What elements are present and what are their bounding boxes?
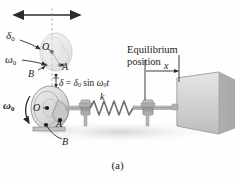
rotation-arc — [26, 96, 30, 123]
right-collar — [143, 100, 153, 115]
label-omega0-top: ω0 — [5, 54, 16, 66]
figure-caption: (a) — [0, 160, 235, 171]
diagram-artwork — [0, 0, 235, 184]
label-equilibrium-position: Equilibriumposition — [127, 44, 178, 68]
equation-delta: δ = δ0 sin ω0t — [59, 79, 109, 89]
spring — [90, 101, 133, 115]
label-spring-constant: k — [100, 92, 104, 102]
label-point-O-bottom: O — [33, 103, 40, 113]
label-point-B-bottom: B — [62, 137, 68, 147]
label-omega0-bottom: ω0 — [3, 100, 14, 112]
label-delta0: δ0 — [6, 30, 15, 42]
label-point-O-top: O — [42, 42, 49, 52]
label-point-B-top: B — [28, 69, 34, 79]
label-x-dimension: x — [164, 61, 168, 71]
left-collar — [81, 100, 90, 115]
delta0-leader — [20, 40, 40, 49]
label-point-A-bottom: A — [56, 119, 62, 129]
figure-container: δ0 ω0 O A B δ = δ0 sin ω0t ω0 O A B k Eq… — [0, 0, 235, 184]
mass-block — [172, 72, 235, 134]
B-top-leader — [38, 66, 45, 70]
label-point-A-top: A — [62, 62, 68, 72]
